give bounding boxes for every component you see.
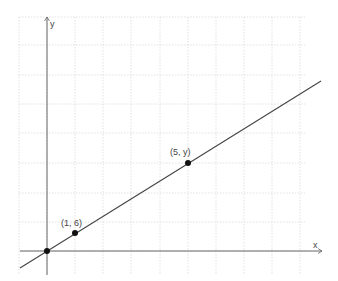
coordinate-plane: x y (1, 6)(5, y)	[0, 0, 338, 281]
point-label: (5, y)	[170, 147, 191, 157]
data-point	[44, 248, 50, 254]
point-label: (1, 6)	[61, 218, 82, 228]
data-point	[185, 160, 191, 166]
x-axis-label: x	[313, 240, 318, 250]
linear-function-line	[20, 81, 321, 268]
data-point	[72, 230, 78, 236]
points: (1, 6)(5, y)	[44, 147, 191, 254]
grid-lines	[19, 17, 305, 275]
axes: x y	[20, 17, 322, 275]
y-axis-label: y	[50, 19, 55, 29]
